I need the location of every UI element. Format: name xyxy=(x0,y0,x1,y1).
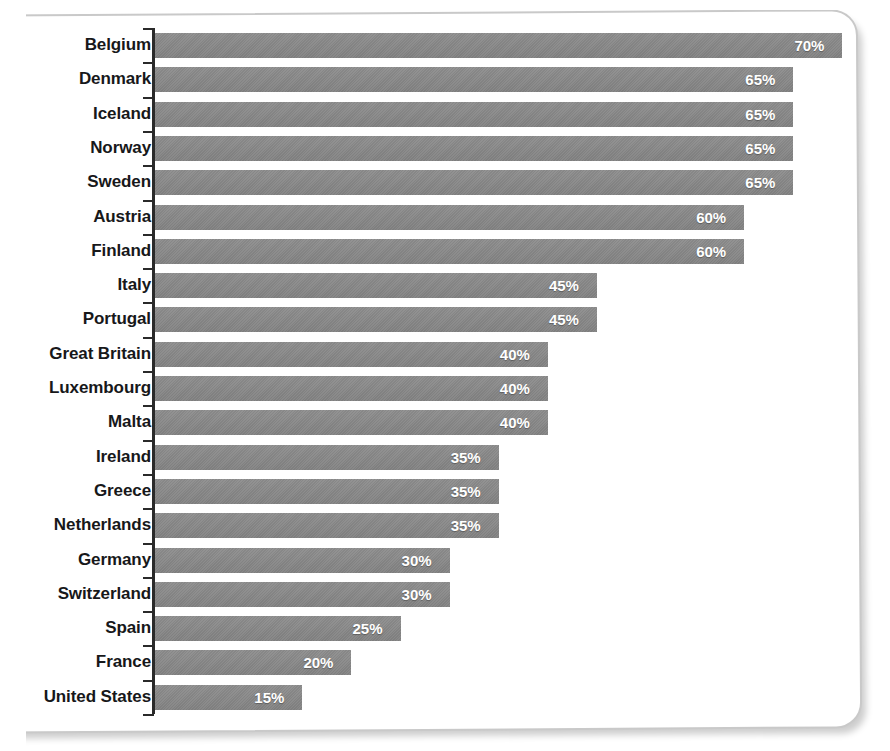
bar-row: United States15% xyxy=(0,680,890,714)
bar xyxy=(155,102,793,127)
category-label: Switzerland xyxy=(0,577,151,611)
horizontal-bar-chart: Belgium70%Denmark65%Iceland65%Norway65%S… xyxy=(0,0,890,751)
bar-value-label: 60% xyxy=(696,239,726,264)
bar-value-label: 65% xyxy=(745,170,775,195)
category-label: Malta xyxy=(0,405,151,439)
bar-value-label: 15% xyxy=(254,685,284,710)
axis-tick xyxy=(143,337,154,339)
bar-row: Italy45% xyxy=(0,268,890,302)
category-label: Germany xyxy=(0,543,151,577)
chart-page: Belgium70%Denmark65%Iceland65%Norway65%S… xyxy=(0,0,890,751)
bar-row: Malta40% xyxy=(0,405,890,439)
bar-row: Norway65% xyxy=(0,131,890,165)
bar-row: Luxembourg40% xyxy=(0,371,890,405)
bar xyxy=(155,273,597,298)
bar xyxy=(155,205,744,230)
bar-row: Iceland65% xyxy=(0,97,890,131)
bar-value-label: 60% xyxy=(696,205,726,230)
bar-value-label: 65% xyxy=(745,67,775,92)
category-label: Sweden xyxy=(0,165,151,199)
bar-value-label: 45% xyxy=(549,273,579,298)
bar-value-label: 35% xyxy=(451,479,481,504)
axis-tick xyxy=(143,474,154,476)
category-label: Portugal xyxy=(0,302,151,336)
bar-value-label: 40% xyxy=(500,410,530,435)
axis-tick xyxy=(143,268,154,270)
axis-tick xyxy=(143,234,154,236)
category-label: Austria xyxy=(0,200,151,234)
bar-row: Sweden65% xyxy=(0,165,890,199)
bar-row: Switzerland30% xyxy=(0,577,890,611)
bar-row: Finland60% xyxy=(0,234,890,268)
axis-tick xyxy=(143,371,154,373)
axis-tick xyxy=(143,714,154,716)
bar-row: Great Britain40% xyxy=(0,337,890,371)
axis-tick xyxy=(143,28,154,30)
axis-tick xyxy=(143,97,154,99)
bar-row: Austria60% xyxy=(0,200,890,234)
axis-tick xyxy=(143,405,154,407)
category-label: Spain xyxy=(0,611,151,645)
axis-tick xyxy=(143,680,154,682)
bar-value-label: 65% xyxy=(745,136,775,161)
bar xyxy=(155,376,548,401)
category-label: Luxembourg xyxy=(0,371,151,405)
bar-row: Greece35% xyxy=(0,474,890,508)
bar xyxy=(155,410,548,435)
category-label: Iceland xyxy=(0,97,151,131)
axis-tick xyxy=(143,62,154,64)
bar-row: Spain25% xyxy=(0,611,890,645)
bar xyxy=(155,479,499,504)
cut-off-caption xyxy=(250,741,670,751)
bar-value-label: 25% xyxy=(353,616,383,641)
category-label: France xyxy=(0,645,151,679)
bar-row: Netherlands35% xyxy=(0,508,890,542)
bar-row: France20% xyxy=(0,645,890,679)
bar xyxy=(155,342,548,367)
bar-value-label: 30% xyxy=(402,548,432,573)
bar-value-label: 35% xyxy=(451,445,481,470)
category-label: Italy xyxy=(0,268,151,302)
bar-value-label: 70% xyxy=(794,33,824,58)
bar xyxy=(155,239,744,264)
axis-tick xyxy=(143,645,154,647)
category-label: Norway xyxy=(0,131,151,165)
bar-value-label: 20% xyxy=(303,650,333,675)
bar-row: Germany30% xyxy=(0,543,890,577)
bar-row: Ireland35% xyxy=(0,440,890,474)
bar xyxy=(155,33,842,58)
bar-value-label: 45% xyxy=(549,307,579,332)
bar-row: Portugal45% xyxy=(0,302,890,336)
category-label: United States xyxy=(0,680,151,714)
bar xyxy=(155,170,793,195)
bar xyxy=(155,136,793,161)
bar xyxy=(155,445,499,470)
bar-value-label: 65% xyxy=(745,102,775,127)
category-label: Greece xyxy=(0,474,151,508)
category-label: Denmark xyxy=(0,62,151,96)
bar xyxy=(155,513,499,538)
category-label: Belgium xyxy=(0,28,151,62)
axis-tick xyxy=(143,577,154,579)
category-label: Netherlands xyxy=(0,508,151,542)
axis-tick xyxy=(143,200,154,202)
category-label: Great Britain xyxy=(0,337,151,371)
bar-value-label: 35% xyxy=(451,513,481,538)
category-label: Finland xyxy=(0,234,151,268)
axis-tick xyxy=(143,543,154,545)
bar xyxy=(155,307,597,332)
axis-tick xyxy=(143,165,154,167)
axis-tick xyxy=(143,508,154,510)
axis-tick xyxy=(143,131,154,133)
bar-value-label: 40% xyxy=(500,376,530,401)
bar-row: Denmark65% xyxy=(0,62,890,96)
bar xyxy=(155,67,793,92)
bar-value-label: 40% xyxy=(500,342,530,367)
bar-row: Belgium70% xyxy=(0,28,890,62)
axis-tick xyxy=(143,302,154,304)
bar-value-label: 30% xyxy=(402,582,432,607)
category-label: Ireland xyxy=(0,440,151,474)
axis-tick xyxy=(143,611,154,613)
axis-tick xyxy=(143,440,154,442)
